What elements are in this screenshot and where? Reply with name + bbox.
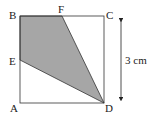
geometry-diagram: B F C E A D 3 cm [0, 0, 151, 117]
label-d: D [105, 102, 113, 114]
label-a: A [10, 102, 18, 114]
dimension-label: 3 cm [125, 54, 147, 66]
shaded-region-bfde [20, 16, 104, 103]
label-f: F [58, 3, 64, 15]
label-e: E [9, 55, 16, 67]
label-b: B [9, 9, 16, 21]
label-c: C [106, 9, 113, 21]
